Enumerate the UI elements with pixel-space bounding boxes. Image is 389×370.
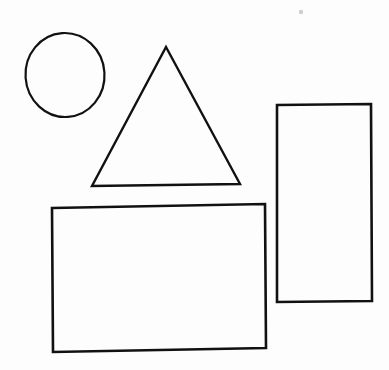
drawing-canvas bbox=[0, 0, 389, 370]
scan-speck bbox=[299, 10, 303, 14]
shapes-svg bbox=[0, 0, 389, 370]
artifact-layer bbox=[299, 10, 303, 14]
